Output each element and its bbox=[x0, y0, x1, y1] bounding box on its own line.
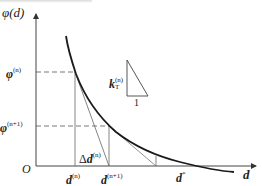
diagram-canvas bbox=[0, 0, 262, 186]
slope-k-label: k(n)T bbox=[109, 75, 123, 91]
slope-triangle bbox=[127, 60, 148, 96]
delta-d-label: Δd(n) bbox=[79, 150, 101, 166]
phi-n1-label: φ(n+1) bbox=[0, 119, 23, 135]
d-n1-label: d(n+1) bbox=[101, 171, 123, 186]
d-star-label: d* bbox=[176, 169, 186, 185]
y-axis-label: φ(d) bbox=[2, 6, 24, 19]
origin-label: O bbox=[22, 163, 31, 175]
d-n-label: d(n) bbox=[66, 171, 80, 186]
slope-run-label: 1 bbox=[134, 98, 139, 108]
x-axis-label: d bbox=[243, 168, 250, 181]
phi-n-label: φ(n) bbox=[6, 65, 21, 81]
